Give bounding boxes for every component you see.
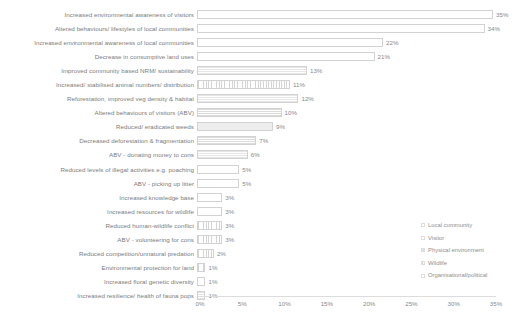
bar — [197, 122, 273, 131]
bar-value-label: 11% — [293, 81, 305, 88]
legend-item: Organisational/political — [421, 269, 521, 282]
legend-swatch-icon — [421, 261, 425, 265]
bar-track: 6% — [197, 148, 521, 162]
bar-value-label: 3% — [225, 236, 234, 243]
bar-row: Decrease in consumptive land uses21% — [0, 49, 521, 63]
bar-row: Decreased deforestation & fragmentation7… — [0, 134, 521, 148]
x-tick-label: 35% — [490, 300, 502, 307]
legend-item: Visitor — [421, 232, 521, 245]
category-label: Reforestation, improved veg density & ha… — [0, 95, 197, 102]
bar — [197, 179, 239, 188]
category-label: ABV - picking up litter — [0, 180, 197, 187]
bar-value-label: 12% — [301, 95, 313, 102]
bar-row: Altered behaviours/ lifestyles of local … — [0, 21, 521, 35]
bar-track: 3% — [197, 204, 521, 218]
bar — [197, 277, 205, 286]
x-axis: 0%5%10%15%20%25%30%35% — [0, 296, 521, 320]
category-label: Reduced competition/unnatural predation — [0, 250, 197, 257]
category-label: ABV - volunteering for cons — [0, 236, 197, 243]
bar-value-label: 35% — [496, 11, 508, 18]
category-label: Reduced human-wildlife conflict — [0, 222, 197, 229]
legend-label: Local community — [428, 222, 472, 230]
legend-swatch-icon — [421, 248, 425, 252]
legend-item: Local community — [421, 219, 521, 232]
bar-track: 5% — [197, 176, 521, 190]
bar — [197, 165, 239, 174]
bar-value-label: 3% — [225, 208, 234, 215]
legend-label: Wildlife — [428, 259, 447, 267]
bar-value-label: 3% — [225, 222, 234, 229]
bar-value-label: 1% — [208, 278, 217, 285]
bar-row: ABV - picking up litter5% — [0, 176, 521, 190]
bar-track: 9% — [197, 120, 521, 134]
bar-value-label: 13% — [310, 67, 322, 74]
bar-track: 12% — [197, 92, 521, 106]
bar-value-label: 5% — [242, 166, 251, 173]
bar-track: 35% — [197, 7, 521, 21]
horizontal-bar-chart: Increased environmental awareness of vis… — [0, 0, 521, 331]
category-label: Reduced/ eradicated weeds — [0, 123, 197, 130]
x-tick-label: 25% — [405, 300, 417, 307]
chart-legend: Local communityVisitorPhysical environme… — [421, 219, 521, 282]
category-label: Increased resources for wildlife — [0, 208, 197, 215]
x-tick-label: 15% — [321, 300, 333, 307]
bar-track: 21% — [197, 49, 521, 63]
x-tick-label: 20% — [363, 300, 375, 307]
bar-value-label: 9% — [276, 123, 285, 130]
category-label: Increased/ stabilised animal numbers/ di… — [0, 81, 197, 88]
legend-item: Physical environment — [421, 244, 521, 257]
bar-track: 13% — [197, 63, 521, 77]
bar — [197, 38, 383, 47]
bar-track: 34% — [197, 21, 521, 35]
bar — [197, 263, 205, 272]
bar — [197, 249, 214, 258]
bar-track: 7% — [197, 134, 521, 148]
bar-value-label: 7% — [259, 137, 268, 144]
bar-row: ABV - donating money to cons6% — [0, 148, 521, 162]
bar-row: Increased environmental awareness of vis… — [0, 7, 521, 21]
category-label: Decreased deforestation & fragmentation — [0, 137, 197, 144]
x-axis-line — [200, 296, 496, 297]
bar — [197, 52, 375, 61]
bar-track: 10% — [197, 106, 521, 120]
bar-row: Increased resources for wildlife3% — [0, 204, 521, 218]
bar — [197, 108, 282, 117]
legend-item: Wildlife — [421, 257, 521, 270]
bar-row: Increased/ stabilised animal numbers/ di… — [0, 77, 521, 91]
bar-value-label: 6% — [251, 151, 260, 158]
bar-row: Increased knowledge base3% — [0, 190, 521, 204]
bar — [197, 24, 485, 33]
category-label: Increased floral genetic diversity — [0, 278, 197, 285]
bar-row: Reduced/ eradicated weeds9% — [0, 120, 521, 134]
category-label: Environmental protection for land — [0, 264, 197, 271]
category-label: Improved community based NRM/ sustainabi… — [0, 67, 197, 74]
legend-label: Physical environment — [428, 247, 484, 255]
bar-track: 11% — [197, 77, 521, 91]
category-label: Altered behaviours/ lifestyles of local … — [0, 25, 197, 32]
bar-value-label: 1% — [208, 264, 217, 271]
legend-swatch-icon — [421, 223, 425, 227]
bar — [197, 150, 248, 159]
plot-area: Increased environmental awareness of vis… — [0, 0, 521, 331]
bar-value-label: 2% — [217, 250, 226, 257]
x-tick-label: 10% — [278, 300, 290, 307]
category-label: Increased environmental awareness of vis… — [0, 11, 197, 18]
x-tick-label: 5% — [238, 300, 247, 307]
bar-value-label: 21% — [378, 53, 390, 60]
bar-row: Altered behaviours of visitors (ABV)10% — [0, 106, 521, 120]
bar-value-label: 10% — [285, 109, 297, 116]
bar — [197, 207, 222, 216]
category-label: Reduced levels of illegal activities e.g… — [0, 166, 197, 173]
bar — [197, 193, 222, 202]
x-tick-label: 0% — [196, 300, 205, 307]
legend-label: Visitor — [428, 234, 444, 242]
bar-row: Reduced levels of illegal activities e.g… — [0, 162, 521, 176]
bar — [197, 221, 222, 230]
bar-track: 22% — [197, 35, 521, 49]
x-tick-label: 30% — [448, 300, 460, 307]
bar-value-label: 34% — [488, 25, 500, 32]
category-label: Decrease in consumptive land uses — [0, 53, 197, 60]
bar — [197, 235, 222, 244]
bar — [197, 66, 307, 75]
category-label: ABV - donating money to cons — [0, 151, 197, 158]
